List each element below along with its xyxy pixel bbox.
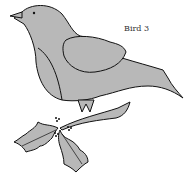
drawing-label: Bird 3 [124, 24, 149, 33]
bird-eye [33, 12, 35, 14]
branch [60, 102, 130, 130]
holly-leaf-left [14, 122, 58, 152]
bird-drawing [0, 0, 196, 177]
bird-legs [78, 100, 94, 112]
bird-beak [10, 12, 22, 18]
